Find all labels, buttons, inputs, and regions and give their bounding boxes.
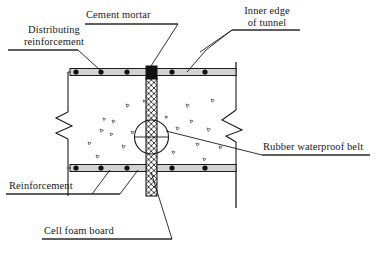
break-line-left bbox=[56, 112, 72, 139]
label-rubber-waterproof-belt: Rubber waterproof belt bbox=[263, 141, 363, 153]
leader-distributing-reinforcement bbox=[8, 50, 100, 70]
label-reinforcement: Reinforcement bbox=[9, 180, 73, 192]
label-inner-edge-line2: of tunnel bbox=[248, 17, 287, 28]
break-line-right bbox=[222, 110, 242, 142]
leader-cement-mortar bbox=[85, 24, 178, 66]
label-cell-foam-board: Cell foam board bbox=[44, 225, 114, 237]
label-distributing-reinforcement: Distributing reinforcement bbox=[14, 24, 94, 48]
leader-reinforcement-b bbox=[92, 170, 110, 194]
label-inner-edge-line1: Inner edge bbox=[244, 5, 290, 16]
concrete-block-right bbox=[157, 62, 242, 208]
label-cement-mortar: Cement mortar bbox=[86, 9, 151, 21]
label-inner-edge-of-tunnel: Inner edge of tunnel bbox=[232, 5, 302, 29]
label-distributing-reinforcement-line1: Distributing bbox=[28, 24, 80, 35]
leader-inner-edge-top bbox=[200, 30, 300, 52]
label-distributing-reinforcement-line2: reinforcement bbox=[24, 36, 84, 47]
figure-canvas: Distributing reinforcement Cement mortar… bbox=[0, 0, 376, 260]
cement-mortar-block bbox=[146, 66, 157, 79]
leader-inner-edge-hook bbox=[187, 30, 232, 72]
